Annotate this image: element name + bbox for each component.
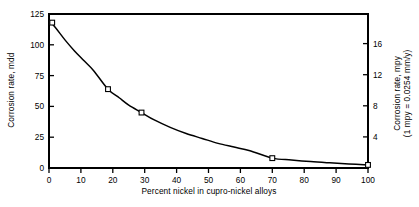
data-curve [49, 20, 368, 165]
y-left-tick-75: 75 [35, 71, 44, 81]
y-axis-left-title: Corrosion rate, mdd [6, 30, 16, 150]
x-tick-0: 0 [47, 175, 52, 185]
y-right-tick-4: 4 [373, 132, 378, 142]
plot-frame [49, 14, 368, 168]
x-tick-80: 80 [300, 175, 309, 185]
x-tick-10: 10 [76, 175, 85, 185]
x-tick-60: 60 [236, 175, 245, 185]
corrosion-rate-chart: 0 25 50 75 100 125 4 8 12 16 0 10 20 30 … [0, 0, 419, 207]
x-tick-100: 100 [361, 175, 375, 185]
y-left-tick-100: 100 [30, 40, 44, 50]
data-point-marker [139, 110, 144, 115]
y-right-tick-8: 8 [373, 101, 378, 111]
y-right-tick-12: 12 [373, 70, 382, 80]
x-tick-70: 70 [268, 175, 277, 185]
data-point-marker [106, 87, 111, 92]
y-left-tick-50: 50 [35, 101, 44, 111]
x-axis-title: Percent nickel in cupro-nickel alloys [49, 186, 369, 196]
y-left-tick-25: 25 [35, 132, 44, 142]
y-left-tick-0: 0 [39, 163, 44, 173]
y-axis-right-title-line2: (1 mpy = 0.0254 mm/y) [402, 28, 412, 158]
data-point-marker [270, 156, 275, 161]
x-tick-30: 30 [140, 175, 149, 185]
y-left-tick-125: 125 [30, 9, 44, 19]
data-point-marker [50, 20, 55, 25]
x-tick-40: 40 [172, 175, 181, 185]
data-point-marker [366, 163, 371, 168]
y-axis-right-title: Corrosion rate, mpy (1 mpy = 0.0254 mm/y… [392, 28, 413, 158]
data-point-markers [50, 20, 371, 167]
x-tick-20: 20 [108, 175, 117, 185]
x-tick-90: 90 [331, 175, 340, 185]
y-right-tick-16: 16 [373, 39, 382, 49]
x-tick-50: 50 [204, 175, 213, 185]
y-axis-right-title-line1: Corrosion rate, mpy [392, 28, 402, 158]
